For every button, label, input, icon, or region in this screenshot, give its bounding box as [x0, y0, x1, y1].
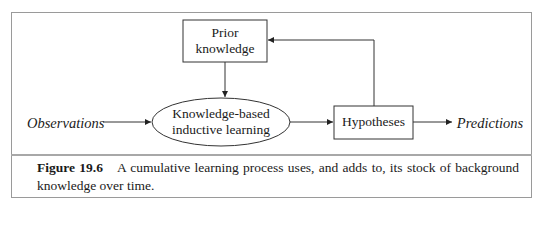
prior-knowledge-line1: Prior: [183, 25, 267, 41]
observations-label: Observations: [27, 115, 99, 131]
prior-knowledge-label: Prior knowledge: [183, 25, 267, 57]
figure-number: Figure 19.6: [37, 160, 103, 175]
hypotheses-label: Hypotheses: [334, 114, 413, 130]
edge-hypotheses-to-prior: [268, 40, 374, 106]
caption-text: A cumulative learning process uses, and …: [37, 160, 519, 193]
figure-caption: Figure 19.6A cumulative learning process…: [37, 159, 519, 195]
prior-knowledge-line2: knowledge: [183, 41, 267, 57]
learning-label: Knowledge-based inductive learning: [152, 106, 290, 138]
predictions-label: Predictions: [455, 115, 525, 131]
learning-line2: inductive learning: [152, 122, 290, 138]
learning-line1: Knowledge-based: [152, 106, 290, 122]
